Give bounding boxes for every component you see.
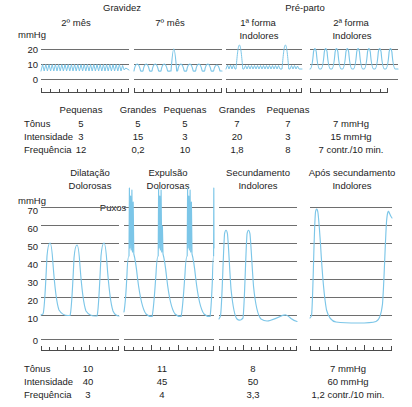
table-cell: 1,2 contr./10 min. bbox=[312, 389, 385, 400]
table-cell: 3 bbox=[85, 389, 90, 400]
table-cell: 60 mmHg bbox=[327, 376, 368, 387]
table-cell: 40 bbox=[83, 376, 94, 387]
table-cell: 8 bbox=[250, 363, 255, 374]
table-rowlabel-frequencia: Frequência bbox=[24, 389, 72, 400]
table-cell: 3,3 bbox=[246, 389, 259, 400]
uterine-contraction-figure: Gravidez Pré-parto 2º mês 7º mês 1ª form… bbox=[0, 0, 412, 407]
table-cell: 7 mmHg bbox=[330, 363, 366, 374]
table-cell: 4 bbox=[159, 389, 164, 400]
table-cell: 10 bbox=[83, 363, 94, 374]
table-rowlabel-intensidade: Intensidade bbox=[24, 376, 73, 387]
table-cell: 11 bbox=[157, 363, 167, 374]
table-cell: 50 bbox=[248, 376, 259, 387]
table-cell: 45 bbox=[157, 376, 168, 387]
data-table-bottom: Tônus Intensidade Frequência 10 11 8 7 m… bbox=[0, 0, 412, 407]
table-rowlabel-tonus: Tônus bbox=[24, 363, 50, 374]
